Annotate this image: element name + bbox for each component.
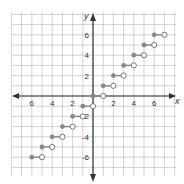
closed-endpoint-dot [152,32,157,37]
open-endpoint-dot [101,93,106,98]
step-segment [131,53,146,58]
open-endpoint-dot [39,155,44,160]
arrow-down-icon [90,174,96,182]
closed-endpoint-dot [131,53,136,58]
closed-endpoint-dot [40,145,45,150]
open-endpoint-dot [60,134,65,139]
step-segment [60,124,75,129]
closed-endpoint-dot [101,83,106,88]
closed-endpoint-dot [29,155,34,160]
closed-endpoint-dot [60,124,65,129]
x-tick-label: 4 [132,99,137,108]
step-segment [50,134,65,139]
open-endpoint-dot [70,124,75,129]
x-tick-label: 2 [70,99,75,108]
step-segment [142,42,157,47]
open-endpoint-dot [162,32,167,37]
open-endpoint-dot [131,63,136,68]
closed-endpoint-dot [121,63,126,68]
step-segment [70,114,85,119]
step-segment [121,63,136,68]
step-segment [91,93,106,98]
open-endpoint-dot [152,42,157,47]
arrow-left-icon [12,93,19,99]
step-segment [40,144,55,149]
open-endpoint-dot [90,104,95,109]
open-endpoint-dot [121,73,126,78]
closed-endpoint-dot [50,134,55,139]
x-tick-label: 2 [111,99,116,108]
x-tick-label: 6 [152,99,157,108]
y-axis-label: y [83,11,89,21]
step-segment [152,32,167,37]
y-tick-label: 4 [85,51,90,60]
open-endpoint-dot [141,53,146,58]
y-tick-label: 2 [85,72,90,81]
x-axis-label: x [174,96,180,106]
x-tick-label: 4 [50,99,55,108]
closed-endpoint-dot [142,43,147,48]
y-tick-label: 6 [85,31,90,40]
closed-endpoint-dot [70,114,75,119]
closed-endpoint-dot [91,94,96,99]
step-function-graph: 642246642-2-4-6 x y [0,0,184,184]
step-segment [101,83,116,88]
open-endpoint-dot [50,144,55,149]
step-segment [29,155,44,160]
closed-endpoint-dot [80,104,85,109]
open-endpoint-dot [80,114,85,119]
step-segment [80,104,95,109]
y-tick-label: -6 [82,153,90,162]
open-endpoint-dot [111,83,116,88]
step-segment [111,73,126,78]
closed-endpoint-dot [111,73,116,78]
x-tick-label: 6 [30,99,35,108]
y-tick-label: -4 [82,133,90,142]
